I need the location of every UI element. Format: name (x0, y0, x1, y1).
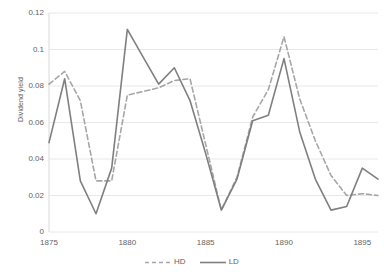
legend-swatch-dashed-icon (145, 259, 171, 266)
legend-entry-ld[interactable]: LD (200, 258, 239, 266)
chart-legend: HDLD (0, 258, 384, 266)
series-line-ld (49, 29, 378, 213)
series-lines (49, 29, 378, 213)
legend-swatch-solid-icon (200, 259, 226, 266)
dividend-yield-line-chart: Dividend yield 00.020.040.060.080.10.12 … (0, 0, 384, 277)
legend-label: HD (174, 258, 186, 266)
gridlines (49, 13, 378, 232)
legend-entry-hd[interactable]: HD (145, 258, 186, 266)
plot-area (0, 0, 384, 277)
legend-label: LD (229, 258, 239, 266)
